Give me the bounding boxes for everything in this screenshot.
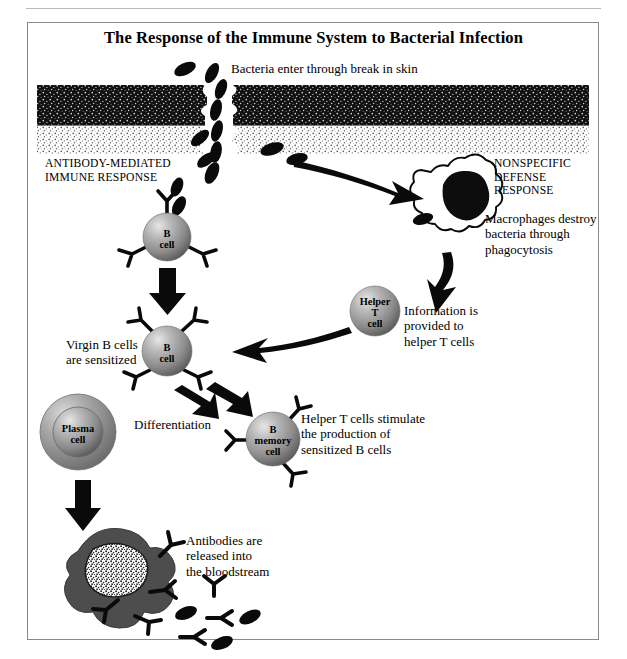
cell-label-line: cell [142,239,192,250]
note-helper-t-information: Information is provided to helper T cell… [404,303,478,349]
cell-label-line: Plasma [48,423,108,434]
cell-label-line: memory [243,435,303,446]
bacterium [172,59,198,79]
bacterium [212,77,229,100]
cell-label-line: B [243,424,303,435]
arrow-helpert-to-bcell [232,327,352,363]
label-antibody-mediated-response: ANTIBODY-MEDIATED IMMUNE RESPONSE [45,157,171,184]
b-cell-top [119,176,216,266]
cell-label-plasma-cell: Plasma cell [48,423,108,445]
skin-layer-right [230,85,589,156]
arrow-plasma-to-secreting [65,480,101,531]
page-title: The Response of the Immune System to Bac… [0,28,627,47]
note-virgin-b-sensitized: Virgin B cells are sensitized [66,337,138,368]
bacterium [173,603,199,622]
label-nonspecific-defense-response: NONSPECIFIC DEFENSE RESPONSE [494,157,571,198]
cell-label-line: Helper [348,296,402,307]
cell-label-line: cell [348,318,402,329]
bacterium [237,607,263,628]
arrow-bacteria-to-macrophage [293,160,424,205]
bacterium [208,98,224,122]
cell-label-b-cell-top: B cell [142,228,192,250]
antibody-bound-bacteria [173,603,263,652]
diagram-graphics [0,0,627,659]
caption-bacteria-enter: Bacteria enter through break in skin [231,61,418,76]
cell-label-helper-t-cell: Helper T cell [348,296,402,329]
cell-label-b-cell-mid: B cell [142,342,192,364]
cell-label-b-memory-cell: B memory cell [243,424,303,457]
arrow-bcell-down [149,268,186,315]
amoeba-nucleus [85,544,148,597]
note-macrophage-phagocytosis: Macrophages destroy bacteria through pha… [485,211,597,257]
label-differentiation: Differentiation [134,417,211,432]
cell-label-line: B [142,228,192,239]
diagram-canvas: The Response of the Immune System to Bac… [0,0,627,659]
cell-label-line: cell [48,434,108,445]
bacterium [209,119,225,143]
note-helper-t-stimulate: Helper T cells stimulate the production … [301,411,425,457]
bacterium [209,633,235,653]
cell-label-line: B [142,342,192,353]
cell-label-line: cell [142,353,192,364]
cell-label-line: cell [243,446,303,457]
skin-layer-left [37,85,209,156]
note-antibodies-released: Antibodies are released into the bloodst… [186,533,269,579]
cell-label-line: T [348,307,402,318]
